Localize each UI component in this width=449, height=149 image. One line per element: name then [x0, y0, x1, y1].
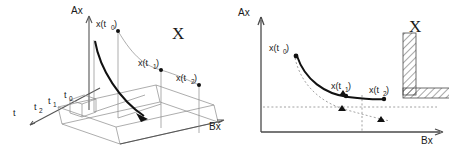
- svg-text:): ): [156, 58, 159, 68]
- svg-text:2: 2: [39, 107, 43, 114]
- left-tick-t1: t 1: [48, 96, 57, 108]
- svg-text:): ): [348, 81, 351, 91]
- right-bx-axis-label: Bx: [421, 135, 433, 146]
- left-ax-axis-label: Ax: [71, 5, 83, 16]
- svg-text:t: t: [64, 90, 67, 100]
- svg-text:x(t: x(t: [176, 73, 186, 83]
- right-panel-svg: Ax Bx x(t 0 ) x(t 1 ) x(t 2 ) X: [225, 0, 449, 149]
- left-bx-axis-label: Bx: [209, 121, 221, 132]
- svg-text:x(t: x(t: [96, 19, 106, 29]
- upper-plate: [58, 85, 214, 127]
- right-ax-axis-label: Ax: [238, 7, 250, 18]
- svg-text:): ): [386, 85, 389, 95]
- left-region-label-X: X: [172, 24, 184, 43]
- right-panel: Ax Bx x(t 0 ) x(t 1 ) x(t 2 ) X: [225, 0, 449, 149]
- left-tick-t2: t 2: [34, 102, 43, 114]
- marker-triangle-2: [338, 105, 346, 111]
- right-point-label-x-t0: x(t 0 ): [269, 43, 289, 55]
- svg-text:t: t: [48, 96, 51, 106]
- right-point-label-x-t2: x(t 2 ): [369, 85, 389, 97]
- base-plate: [62, 102, 218, 144]
- right-data-point-x-t2: [382, 97, 386, 101]
- right-bx-axis-group: [261, 129, 443, 135]
- marker-triangle-3: [377, 116, 385, 122]
- trajectory-curve: [95, 41, 148, 122]
- right-ax-axis-group: [258, 17, 264, 132]
- left-panel-svg: Ax t t 2 t 1 t 0 x(t 0 ) x(t 1 ): [0, 0, 225, 149]
- inner-step-box: [70, 95, 96, 117]
- svg-text:): ): [286, 43, 289, 53]
- data-point-x-t0: [116, 29, 120, 33]
- svg-text:0: 0: [69, 95, 73, 102]
- svg-text:t: t: [34, 102, 37, 112]
- left-time-axis-label: t: [13, 108, 16, 118]
- svg-text:x(t: x(t: [369, 85, 379, 95]
- left-point-label-x-t0: x(t 0 ): [96, 19, 117, 31]
- left-point-label-x-t2: x(t 2 ): [176, 73, 197, 85]
- right-data-point-x-t0: [294, 54, 299, 59]
- svg-text:x(t: x(t: [331, 81, 341, 91]
- bx-axis-line: [120, 121, 222, 144]
- time-axis-arrow: [30, 121, 35, 125]
- figure-root: Ax t t 2 t 1 t 0 x(t 0 ) x(t 1 ): [0, 0, 449, 149]
- right-region-label-X: X: [409, 17, 421, 36]
- svg-text:): ): [194, 73, 197, 83]
- data-point-x-t2: [197, 83, 201, 87]
- left-tick-t0: t 0: [64, 90, 73, 102]
- left-point-label-x-t1: x(t 1 ): [138, 58, 159, 70]
- svg-text:x(t: x(t: [269, 43, 279, 53]
- data-point-x-t1: [159, 68, 163, 72]
- svg-text:): ): [114, 19, 117, 29]
- left-panel: Ax t t 2 t 1 t 0 x(t 0 ) x(t 1 ): [0, 0, 225, 149]
- svg-text:1: 1: [53, 101, 57, 108]
- hatched-region-X: [403, 33, 449, 98]
- svg-text:x(t: x(t: [138, 58, 148, 68]
- right-point-label-x-t1: x(t 1 ): [331, 81, 351, 93]
